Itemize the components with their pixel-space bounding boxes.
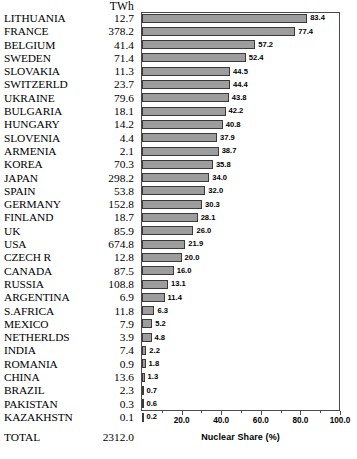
x-axis-tick [340, 411, 341, 415]
bar-row: 2.2 [142, 344, 340, 357]
twh-value: 0.9 [80, 358, 134, 371]
bar-row: 11.4 [142, 291, 340, 304]
total-label: TOTAL [4, 430, 40, 444]
twh-value: 70.3 [80, 158, 134, 171]
nuclear-share-bar-chart: TWh LITHUANIA12.7FRANCE378.2BELGIUM41.4S… [0, 0, 357, 459]
country-label: NETHERLDS [4, 331, 88, 344]
twh-value: 674.8 [80, 238, 134, 251]
bar-row: 1.3 [142, 371, 340, 384]
country-label: KOREA [4, 158, 88, 171]
bar-row: 40.8 [142, 118, 340, 131]
twh-value: 152.8 [80, 198, 134, 211]
bar-value-label: 6.3 [157, 305, 168, 317]
bar-value-label: 2.2 [149, 345, 160, 357]
country-label: CHINA [4, 371, 88, 384]
bar [142, 200, 202, 209]
bar [142, 319, 152, 328]
twh-value: 108.8 [80, 278, 134, 291]
bar-value-label: 21.9 [188, 238, 203, 250]
bar-row: 21.9 [142, 238, 340, 251]
bar-row: 16.0 [142, 265, 340, 278]
bar-row: 37.9 [142, 132, 340, 145]
bar [142, 14, 307, 23]
x-axis-tick-label: 60.0 [241, 416, 281, 425]
x-axis-tick-label: 100.0 [320, 416, 357, 425]
x-axis-title: Nuclear Share (%) [141, 432, 340, 442]
x-axis-tick [261, 411, 262, 415]
bar-row: 52.4 [142, 52, 340, 65]
bar-row: 5.2 [142, 318, 340, 331]
bar-row: 42.2 [142, 105, 340, 118]
bar-row: 83.4 [142, 12, 340, 25]
bar [142, 293, 165, 302]
bar-value-label: 32.0 [208, 185, 223, 197]
bar-row: 44.4 [142, 78, 340, 91]
bar [142, 359, 146, 368]
bar-row: 43.8 [142, 92, 340, 105]
twh-value: 79.6 [80, 92, 134, 105]
bar [142, 186, 205, 195]
twh-value: 2.3 [80, 384, 134, 397]
bar-value-label: 38.7 [222, 145, 237, 157]
country-label: ROMANIA [4, 358, 88, 371]
bar [142, 27, 295, 36]
twh-value: 85.9 [80, 225, 134, 238]
total-row: TOTAL 2312.0 [0, 430, 141, 446]
twh-value: 2.1 [80, 145, 134, 158]
country-label: RUSSIA [4, 278, 88, 291]
bar-value-label: 0.6 [147, 398, 158, 410]
country-label: SWITZERLD [4, 78, 88, 91]
bar-value-label: 35.8 [216, 159, 231, 171]
twh-value: 23.7 [80, 78, 134, 91]
bar-row: 20.0 [142, 251, 340, 264]
bar-value-label: 0.7 [147, 385, 158, 397]
twh-value: 6.9 [80, 291, 134, 304]
country-label: MEXICO [4, 318, 88, 331]
country-label: INDIA [4, 344, 88, 357]
x-axis-minor-tick [320, 411, 321, 413]
country-label: JAPAN [4, 172, 88, 185]
twh-value: 4.4 [80, 132, 134, 145]
bar [142, 80, 230, 89]
bar-value-label: 1.8 [149, 358, 160, 370]
country-label: BULGARIA [4, 105, 88, 118]
twh-value: 18.7 [80, 211, 134, 224]
country-label: SLOVAKIA [4, 65, 88, 78]
x-axis-tick-labels: 20.040.060.080.0100.0 [0, 416, 357, 428]
bar-row: 35.8 [142, 158, 340, 171]
twh-value: 53.8 [80, 185, 134, 198]
x-axis-tick-label: 20.0 [162, 416, 202, 425]
bar-row: 6.3 [142, 305, 340, 318]
twh-value: 41.4 [80, 39, 134, 52]
bar [142, 266, 174, 275]
twh-value: 298.2 [80, 172, 134, 185]
x-axis-tick-label: 80.0 [280, 416, 320, 425]
bar [142, 373, 145, 382]
bar [142, 93, 229, 102]
country-label: CANADA [4, 265, 88, 278]
bar-value-label: 5.2 [155, 318, 166, 330]
bar-value-label: 4.8 [155, 332, 166, 344]
x-axis-tick [221, 411, 222, 415]
bar-value-label: 13.1 [171, 278, 186, 290]
twh-value: 11.3 [80, 65, 134, 78]
bar-value-label: 44.5 [233, 66, 248, 78]
twh-value: 3.9 [80, 331, 134, 344]
bar [142, 107, 226, 116]
bar-row: 30.3 [142, 198, 340, 211]
bar-row: 44.5 [142, 65, 340, 78]
bar-value-label: 40.8 [226, 119, 241, 131]
bar-row: 1.8 [142, 358, 340, 371]
bar [142, 386, 144, 395]
country-label: ARGENTINA [4, 291, 88, 304]
total-value: 2312.0 [62, 430, 134, 444]
x-axis-tick [182, 411, 183, 415]
bar-row: 13.1 [142, 278, 340, 291]
twh-value: 11.8 [80, 305, 134, 318]
country-label: SLOVENIA [4, 132, 88, 145]
twh-value: 87.5 [80, 265, 134, 278]
bar-value-label: 37.9 [220, 132, 235, 144]
bars-container: 83.477.457.252.444.544.443.842.240.837.9… [142, 12, 340, 411]
twh-value: 12.7 [80, 12, 134, 25]
bar [142, 240, 185, 249]
